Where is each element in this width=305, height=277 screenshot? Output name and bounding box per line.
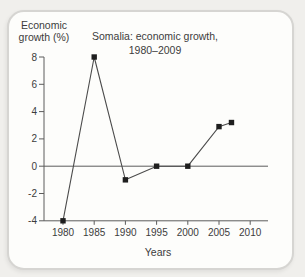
y-tick-label: 4 (31, 106, 37, 117)
x-tick-label: 2000 (177, 227, 200, 238)
x-tick-label: 2005 (208, 227, 231, 238)
data-point-marker (154, 164, 159, 169)
data-point-marker (216, 124, 221, 129)
data-point-marker (60, 218, 65, 223)
x-axis-label: Years (118, 246, 198, 258)
y-tick-label: 0 (31, 161, 37, 172)
y-tick-label: -4 (28, 215, 37, 226)
x-tick-label: 1985 (83, 227, 106, 238)
y-tick-label: 6 (31, 79, 37, 90)
data-point-marker (123, 177, 128, 182)
data-point-marker (185, 164, 190, 169)
data-point-marker (229, 120, 234, 125)
x-tick-label: 1995 (145, 227, 168, 238)
y-tick-label: 8 (31, 52, 37, 63)
line-chart: 86420-2-41980198519901995200020052010 (0, 0, 305, 277)
x-tick-label: 1980 (52, 227, 75, 238)
x-tick-label: 1990 (114, 227, 137, 238)
data-point-marker (92, 54, 97, 59)
y-tick-label: 2 (31, 133, 37, 144)
x-tick-label: 2010 (239, 227, 262, 238)
page-background: Economic growth (%) Somalia: economic gr… (0, 0, 305, 277)
y-tick-label: -2 (28, 188, 37, 199)
data-line (63, 57, 231, 221)
